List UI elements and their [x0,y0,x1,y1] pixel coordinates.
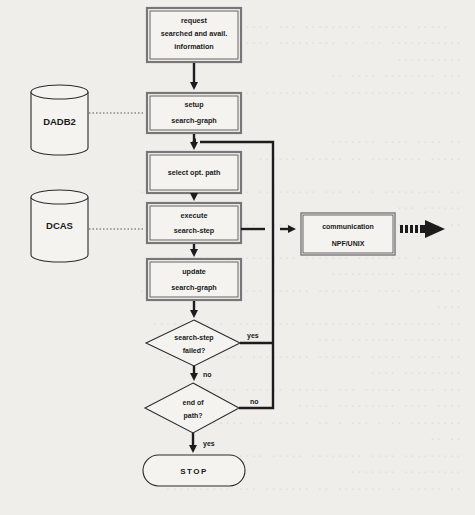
update-line-2: search-graph [171,283,217,292]
decision-end-of-path: end of path? [145,383,239,433]
request-line-3: information [174,42,214,51]
dadb2-label: DADB2 [43,116,76,127]
execute-line-2: search-step [174,226,215,235]
request-line-1: request [181,16,208,25]
process-setup: setup search-graph [147,93,241,133]
decision-search-step-failed: search-step failed? [146,320,240,366]
end-yes-label: yes [203,440,215,448]
process-request: request searched and avail. information [147,8,241,62]
process-select-opt-path: select opt. path [147,152,241,193]
select-line-1: select opt. path [168,168,221,177]
update-line-1: update [182,267,206,276]
stop-label: STOP [180,467,208,476]
dcas-label: DCAS [46,220,73,231]
database-dadb2: DADB2 [31,85,88,155]
request-line-2: searched and avail. [161,29,227,38]
failed-line-1: search-step [174,334,213,342]
external-communication: communication NPF/UNIX [301,213,395,255]
process-execute: execute search-step [147,203,241,243]
failed-line-2: failed? [183,347,206,354]
setup-line-2: search-graph [171,116,217,125]
database-dcas: DCAS [31,190,88,262]
communication-line-1: communication [322,223,374,230]
end-line-1: end of [183,399,205,406]
end-line-2: path? [183,412,202,420]
setup-line-1: setup [184,100,204,109]
end-no-label: no [250,398,259,405]
terminal-stop: STOP [143,455,245,486]
dashed-output-arrow [400,220,445,238]
execute-line-1: execute [181,211,208,220]
communication-line-2: NPF/UNIX [332,240,365,247]
failed-yes-label: yes [247,332,259,340]
process-update: update search-graph [147,259,241,300]
failed-no-label: no [203,371,212,378]
flowchart: request searched and avail. information … [0,0,475,515]
